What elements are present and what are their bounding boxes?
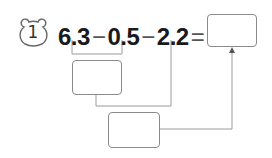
- intermediate-answer-box-1[interactable]: [72, 60, 122, 95]
- term-2: 0.5: [107, 23, 139, 51]
- minus-operator-2: −: [141, 23, 155, 51]
- term-1: 6.3: [58, 23, 90, 51]
- minus-operator-1: −: [92, 23, 106, 51]
- final-answer-box[interactable]: [207, 14, 257, 47]
- problem-number: 1: [19, 22, 47, 42]
- term-3: 2.2: [157, 23, 189, 51]
- intermediate-answer-box-2[interactable]: [108, 112, 160, 148]
- equals-sign: =: [191, 23, 205, 51]
- math-expression: 6.3−0.5−2.2=: [58, 23, 206, 51]
